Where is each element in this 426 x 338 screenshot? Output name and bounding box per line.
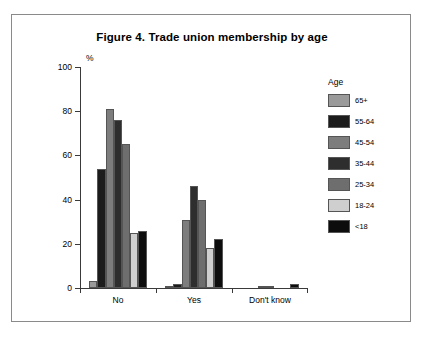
- legend-swatch: [328, 157, 350, 170]
- bar: [130, 233, 138, 288]
- legend-swatch: [328, 220, 350, 233]
- legend-entry: 18-24: [328, 197, 406, 213]
- y-tick-label: 0: [67, 283, 72, 293]
- bar: [206, 248, 214, 288]
- y-axis-unit-label: %: [86, 53, 94, 63]
- bar: [97, 169, 105, 288]
- bar: [165, 286, 173, 288]
- legend-swatch: [328, 178, 350, 191]
- legend-label: 25-34: [355, 180, 374, 189]
- legend-swatch: [328, 199, 350, 212]
- legend-label: 35-44: [355, 159, 374, 168]
- bar: [114, 120, 122, 288]
- x-tick: [80, 288, 81, 293]
- legend-label: 45-54: [355, 138, 374, 147]
- bar: [266, 286, 274, 288]
- plot-area: % 020406080100 NoYesDon't know: [80, 67, 308, 289]
- legend-swatch: [328, 136, 350, 149]
- bar-group: [165, 67, 222, 288]
- legend-swatch: [328, 115, 350, 128]
- x-tick: [307, 288, 308, 293]
- legend-label: 55-64: [355, 117, 374, 126]
- legend-entry: 35-44: [328, 155, 406, 171]
- legend-entry: <18: [328, 218, 406, 234]
- legend-swatch: [328, 94, 350, 107]
- y-axis: [80, 67, 81, 289]
- x-axis: [80, 288, 308, 289]
- bar-group: [241, 67, 298, 288]
- figure-frame: Figure 4. Trade union membership by age …: [11, 14, 411, 322]
- bar: [214, 239, 222, 288]
- legend-label: 65+: [355, 96, 368, 105]
- y-tick: [75, 67, 80, 68]
- x-tick-label: No: [113, 295, 124, 305]
- y-tick-label: 60: [63, 150, 72, 160]
- x-tick: [232, 288, 233, 293]
- bar: [198, 200, 206, 288]
- x-tick-label: Yes: [187, 295, 201, 305]
- y-tick-label: 80: [63, 106, 72, 116]
- legend: Age 65+55-6445-5435-4425-3418-24<18: [328, 77, 406, 239]
- y-tick-label: 100: [58, 62, 72, 72]
- bar: [106, 109, 114, 288]
- bar-group: [89, 67, 146, 288]
- bar: [190, 186, 198, 288]
- legend-label: <18: [355, 222, 368, 231]
- bar: [290, 284, 298, 288]
- bar: [182, 220, 190, 289]
- bar: [89, 281, 97, 288]
- y-tick-label: 20: [63, 239, 72, 249]
- x-tick-label: Don't know: [249, 295, 291, 305]
- bar: [138, 231, 146, 288]
- y-tick-label: 40: [63, 195, 72, 205]
- y-tick: [75, 244, 80, 245]
- legend-entries: 65+55-6445-5435-4425-3418-24<18: [328, 92, 406, 234]
- bar: [258, 286, 266, 288]
- y-tick: [75, 200, 80, 201]
- chart-title: Figure 4. Trade union membership by age: [12, 31, 412, 43]
- legend-title: Age: [328, 77, 406, 87]
- bar: [173, 284, 181, 288]
- x-tick: [156, 288, 157, 293]
- legend-entry: 25-34: [328, 176, 406, 192]
- legend-entry: 55-64: [328, 113, 406, 129]
- y-tick: [75, 111, 80, 112]
- legend-entry: 45-54: [328, 134, 406, 150]
- legend-label: 18-24: [355, 201, 374, 210]
- y-tick: [75, 155, 80, 156]
- bar: [122, 144, 130, 288]
- legend-entry: 65+: [328, 92, 406, 108]
